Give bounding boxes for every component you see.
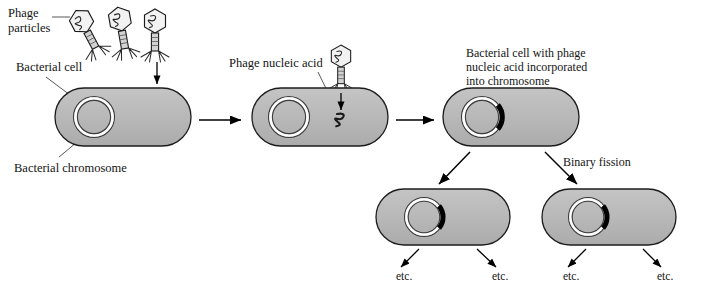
arrow-etc-3 — [568, 249, 586, 267]
arrow-division-left — [439, 152, 470, 184]
cell-5-daughter-right — [542, 189, 676, 245]
label-incorporated-chromosome: Bacterial cell with phagenucleic acid in… — [466, 46, 587, 88]
label-etc-2: etc. — [492, 270, 508, 282]
label-etc-4: etc. — [657, 270, 673, 282]
label-binary-fission: Binary fission — [563, 155, 631, 169]
cell-1-uninfected — [55, 88, 191, 146]
label-phage-particles: Phageparticles — [8, 6, 50, 36]
diagram-svg — [0, 0, 704, 299]
phage-3 — [141, 9, 169, 62]
cell-4-daughter-left — [376, 189, 510, 245]
phage-1 — [64, 4, 114, 64]
cell-3-lysogen — [443, 88, 579, 146]
cell-2-injected — [252, 88, 388, 146]
figure-canvas: Phageparticles Bacterial cell Bacterial … — [0, 0, 704, 299]
label-etc-1: etc. — [396, 270, 412, 282]
phage-2 — [104, 5, 141, 62]
phage-particles-group — [64, 4, 354, 94]
label-phage-particles-line1: Phage — [8, 6, 39, 20]
label-bacterial-cell: Bacterial cell — [16, 60, 82, 75]
label-incorporated-line2: nucleic acid incorporated — [466, 60, 587, 74]
label-bacterial-chromosome: Bacterial chromosome — [14, 161, 127, 176]
label-phage-nucleic-acid: Phage nucleic acid — [229, 56, 323, 71]
label-incorporated-line3: into chromosome — [466, 74, 550, 88]
arrow-etc-1 — [401, 249, 419, 267]
label-phage-particles-line2: particles — [8, 21, 50, 35]
arrow-etc-4 — [643, 249, 661, 267]
phage-4-injecting — [328, 45, 354, 94]
arrow-etc-2 — [477, 249, 496, 267]
label-incorporated-line1: Bacterial cell with phage — [466, 46, 586, 60]
label-etc-3: etc. — [563, 270, 579, 282]
